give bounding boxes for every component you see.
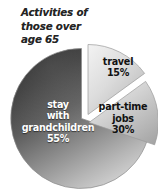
pie-label-stay-with-grandchildren: stay with grandchildren 55% — [16, 99, 100, 145]
pie-label-travel: travel 15% — [90, 56, 146, 79]
chart-title: Activities of those over age 65 — [21, 6, 116, 47]
pie-chart-infographic: Activities of those over age 65 — [0, 0, 158, 193]
pie-label-part-time-jobs: part-time jobs 30% — [92, 101, 154, 136]
